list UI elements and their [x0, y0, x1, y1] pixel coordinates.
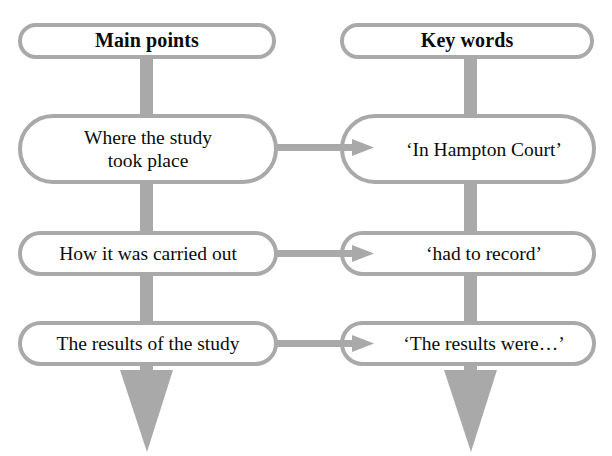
cross-arrow-3-shaft	[276, 340, 358, 347]
cross-arrow-1-shaft	[276, 144, 358, 151]
cross-arrow-3-head-icon	[352, 335, 374, 352]
cross-arrow-layer	[0, 0, 612, 456]
cross-arrow-1-head-icon	[352, 139, 374, 156]
flow-diagram: Main points Where the study took place H…	[0, 0, 612, 456]
cross-arrow-2-shaft	[276, 250, 358, 257]
cross-arrow-2-head-icon	[352, 245, 374, 262]
